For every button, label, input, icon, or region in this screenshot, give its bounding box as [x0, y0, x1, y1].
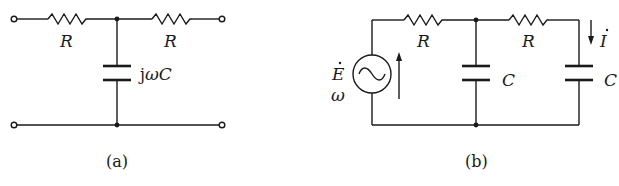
- resistor-b-left: [404, 15, 444, 25]
- terminal-bottom-right: [219, 122, 225, 128]
- resistor-b-right: [509, 15, 549, 25]
- voltage-arrow-icon: [396, 52, 402, 61]
- label-source-e: E: [331, 64, 345, 84]
- dot-accent: [339, 62, 341, 64]
- terminal-bottom-left: [11, 122, 17, 128]
- circuit-b: R R C C I E ω (b): [331, 15, 617, 171]
- caption-b: (b): [465, 152, 488, 171]
- sine-wave-icon: [359, 68, 385, 80]
- terminal-top-right: [219, 16, 225, 22]
- current-arrow-icon: [588, 36, 594, 45]
- dot-accent: [606, 29, 608, 31]
- label-current-i: I: [599, 31, 607, 51]
- caption-a: (a): [106, 152, 128, 171]
- circuit-a: R R jωC (a): [11, 14, 225, 171]
- node-dot: [474, 123, 479, 128]
- circuit-diagrams: R R jωC (a): [0, 0, 619, 186]
- label-omega: ω: [331, 85, 345, 105]
- resistor-a-right: [152, 14, 192, 24]
- label-c-mid: C: [502, 70, 515, 90]
- node-dot: [115, 123, 120, 128]
- label-r-a-right: R: [163, 31, 177, 51]
- node-dot: [474, 18, 479, 23]
- label-r-b-right: R: [521, 31, 535, 51]
- node-dot: [115, 17, 120, 22]
- label-r-a-left: R: [59, 31, 73, 51]
- resistor-a-left: [48, 14, 88, 24]
- label-c-right: C: [604, 70, 617, 90]
- label-jwc: jωC: [138, 64, 172, 84]
- terminal-top-left: [11, 16, 17, 22]
- label-r-b-left: R: [416, 31, 430, 51]
